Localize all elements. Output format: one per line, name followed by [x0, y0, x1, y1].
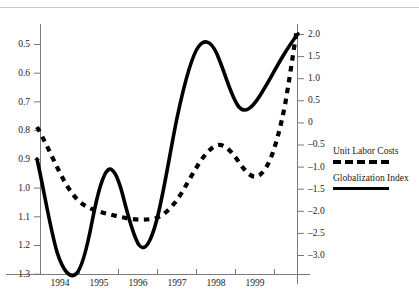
series-globalization-index: [37, 34, 298, 275]
left-tick-label-2: 0.7: [4, 97, 30, 107]
chart-figure: 0.5 0.6 0.7 0.8 0.9 1.0 1.1 1.2 1.3 2.0 …: [0, 0, 419, 299]
x-tick-label-1994: 1994: [40, 278, 80, 288]
left-tick-label-0: 0.5: [4, 39, 30, 49]
left-tick-label-4: 0.9: [4, 154, 30, 164]
right-axis-ticks: [298, 35, 304, 256]
series-unit-labor-costs: [37, 28, 297, 220]
x-tick-label-1995: 1995: [79, 278, 119, 288]
right-tick-label-10: –3.0: [308, 250, 340, 260]
x-tick-label-1998: 1998: [196, 278, 236, 288]
right-tick-label-1: 1.5: [308, 51, 340, 61]
left-tick-label-6: 1.1: [4, 212, 30, 222]
left-tick-label-8: 1.3: [4, 269, 30, 279]
chart-legend: Unit Labor Costs Globalization Index: [333, 146, 417, 199]
legend-entry-unit-labor-costs: Unit Labor Costs: [333, 146, 417, 164]
left-tick-label-7: 1.2: [4, 240, 30, 250]
right-tick-label-9: –2.5: [308, 228, 340, 238]
left-tick-label-1: 0.6: [4, 68, 30, 78]
right-tick-label-2: 1.0: [308, 73, 340, 83]
left-tick-label-5: 1.0: [4, 183, 30, 193]
x-tick-label-1996: 1996: [118, 278, 158, 288]
legend-label-unit-labor-costs: Unit Labor Costs: [333, 146, 417, 157]
right-tick-label-0: 2.0: [308, 29, 340, 39]
legend-swatch-dashed: [333, 160, 389, 164]
legend-entry-globalization-index: Globalization Index: [333, 173, 417, 190]
x-tick-label-1999: 1999: [235, 278, 275, 288]
x-tick-label-1997: 1997: [157, 278, 197, 288]
right-tick-label-4: 0: [308, 117, 340, 127]
legend-swatch-solid: [333, 187, 389, 190]
legend-label-globalization-index: Globalization Index: [333, 173, 417, 184]
left-tick-label-3: 0.8: [4, 125, 30, 135]
right-tick-label-3: 0.5: [308, 95, 340, 105]
right-tick-label-8: –2.0: [308, 206, 340, 216]
